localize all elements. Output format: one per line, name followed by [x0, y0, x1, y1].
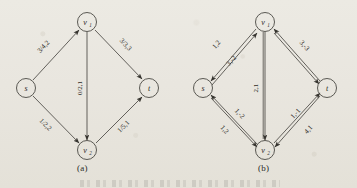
node-label-a-t: t — [148, 84, 151, 93]
edge-label-b-v1-t: 3,-3 — [298, 39, 312, 53]
caption-diagram-b: (b) — [258, 163, 269, 173]
node-label-a-v1-subscript: 1 — [89, 22, 92, 28]
node-label-a-s: s — [24, 84, 27, 93]
node-label-a-v2: v — [83, 146, 87, 155]
edge-a-s-v1 — [33, 30, 79, 80]
edge-a-v1-t — [95, 30, 142, 79]
edge-a-v2-t — [96, 97, 142, 143]
node-label-b-v2-subscript: 2 — [267, 150, 270, 156]
edge-label-a-v1-t: 3/3,3 — [118, 37, 134, 53]
page-bleedthrough-text — [80, 180, 280, 187]
node-label-b-s: s — [201, 84, 204, 93]
node-label-b-v2: v — [261, 146, 265, 155]
edge-label-b-v2-s: 1,-2 — [233, 107, 247, 121]
edge-label-b-s-v2: 1,2 — [219, 124, 231, 136]
diagram-a: s v 1 v 2 t 3/4,2 3/3,3 0/2,1 1/2,2 1/5,… — [17, 13, 159, 160]
edge-b-t-v2 — [275, 96, 320, 147]
edge-b-v1-t — [274, 33, 319, 84]
node-label-b-v1-subscript: 1 — [267, 22, 270, 28]
edge-label-a-s-v1: 3/4,2 — [36, 38, 52, 54]
node-a-v2[interactable] — [78, 141, 97, 160]
edge-b-t-v1 — [274, 29, 320, 81]
caption-diagram-a: (a) — [77, 163, 88, 173]
node-b-v2[interactable] — [256, 141, 275, 160]
edge-b-v2-s — [211, 95, 257, 144]
node-label-a-v1: v — [83, 18, 87, 27]
edge-label-b-v1-v2: 2,1 — [252, 83, 260, 92]
figure-two-flow-networks: .edge{stroke:#4a4843;stroke-width:.85;fi… — [0, 0, 357, 188]
node-b-v1[interactable] — [256, 13, 275, 32]
edge-label-a-v1-v2: 0/2,1 — [76, 80, 84, 95]
edge-label-b-s-v1: 1,2 — [211, 38, 223, 50]
edge-label-b-v1-s: 3,-2 — [225, 54, 239, 68]
edge-b-s-v2 — [211, 98, 257, 147]
node-label-b-v1: v — [261, 18, 265, 27]
edge-b-v2-t — [274, 93, 320, 143]
edge-label-b-v2-t: 4,1 — [303, 123, 315, 135]
edge-label-a-s-v2: 1/2,2 — [38, 117, 54, 133]
node-label-a-v2-subscript: 2 — [89, 150, 92, 156]
figure-canvas: .edge{stroke:#4a4843;stroke-width:.85;fi… — [0, 0, 357, 188]
node-label-b-t: t — [326, 84, 329, 93]
node-a-v1[interactable] — [78, 13, 97, 32]
edge-b-v1-s — [211, 29, 256, 81]
diagram-b: s v 1 v 2 t 1,2 3,-2 3,-3 2,1 1,-2 1,2 1… — [194, 13, 337, 160]
